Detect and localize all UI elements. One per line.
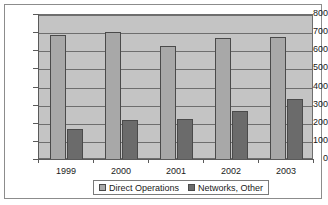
- x-axis-tick: [313, 159, 314, 163]
- y-axis-label: 500: [298, 63, 328, 72]
- y-axis-tick: [33, 14, 38, 15]
- y-axis-label: 100: [298, 136, 328, 145]
- legend-swatch-icon: [99, 184, 106, 191]
- bar-2002-series1: [232, 111, 248, 160]
- bar-2000-series0: [105, 32, 121, 160]
- x-axis-tick: [38, 159, 39, 163]
- x-axis-tick: [148, 159, 149, 163]
- legend-item-1[interactable]: Networks, Other: [188, 183, 263, 193]
- bar-2001-series1: [177, 119, 193, 160]
- y-axis-tick: [33, 123, 38, 124]
- x-axis-tick: [203, 159, 204, 163]
- bar-1999-series0: [50, 35, 66, 160]
- gridline: [39, 15, 312, 16]
- y-axis-line: [38, 14, 39, 159]
- y-axis-label: 600: [298, 45, 328, 54]
- bar-2003-series0: [270, 37, 286, 160]
- x-axis-label-1999: 1999: [46, 166, 86, 176]
- x-axis-label-2003: 2003: [266, 166, 306, 176]
- y-axis-label: 700: [298, 27, 328, 36]
- x-axis-label-2001: 2001: [156, 166, 196, 176]
- x-axis-tick: [93, 159, 94, 163]
- x-axis-tick: [258, 159, 259, 163]
- bar-2002-series0: [215, 38, 231, 160]
- y-axis-label: 400: [298, 82, 328, 91]
- y-axis-tick: [33, 87, 38, 88]
- y-axis-tick: [33, 50, 38, 51]
- gridline: [39, 33, 312, 34]
- y-axis-label: 300: [298, 100, 328, 109]
- x-axis-label-2000: 2000: [101, 166, 141, 176]
- y-axis-tick: [33, 32, 38, 33]
- y-axis-tick: [33, 105, 38, 106]
- x-axis-label-2002: 2002: [211, 166, 251, 176]
- y-axis-tick: [33, 68, 38, 69]
- y-axis-tick: [33, 141, 38, 142]
- legend-swatch-icon: [188, 184, 195, 191]
- bar-1999-series1: [67, 129, 83, 160]
- bar-chart: Direct OperationsNetworks, Other 0100200…: [0, 0, 328, 205]
- x-axis-line: [38, 159, 313, 160]
- y-axis-label: 200: [298, 118, 328, 127]
- y-axis-label: 800: [298, 9, 328, 18]
- legend-label: Direct Operations: [109, 183, 179, 193]
- plot-area: [38, 14, 313, 159]
- legend-item-0[interactable]: Direct Operations: [99, 183, 179, 193]
- chart-legend: Direct OperationsNetworks, Other: [93, 180, 269, 195]
- bar-2001-series0: [160, 46, 176, 160]
- bar-2000-series1: [122, 120, 138, 160]
- legend-label: Networks, Other: [198, 183, 263, 193]
